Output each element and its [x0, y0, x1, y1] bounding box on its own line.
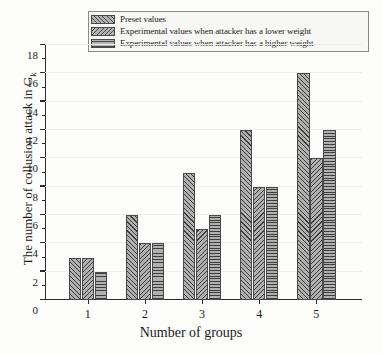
bar — [266, 187, 279, 300]
legend-item-lower-weight: Experimental values when attacker has a … — [91, 25, 366, 37]
bar — [139, 243, 152, 300]
legend-swatch-icon-preset-values — [91, 15, 115, 24]
legend-label-lower-weight: Experimental values when attacker has a … — [120, 26, 311, 36]
y-tick-major — [40, 270, 45, 271]
bar — [196, 229, 209, 300]
y-tick-label: 8 — [12, 192, 38, 203]
bar — [323, 130, 336, 300]
y-tick-major — [40, 157, 45, 158]
bar — [310, 158, 323, 300]
y-tick-major — [40, 100, 45, 101]
bar — [297, 73, 310, 300]
y-tick-major — [40, 214, 45, 215]
y-tick-minor — [42, 285, 45, 286]
y-tick-label: 2 — [12, 277, 38, 288]
x-tick — [316, 300, 317, 304]
x-tick-label: 2 — [130, 308, 160, 320]
legend-item-preset-values: Preset values — [91, 13, 366, 25]
y-tick-major — [40, 242, 45, 243]
y-tick-minor — [42, 172, 45, 173]
y-tick-label: 14 — [12, 107, 38, 118]
legend-label-preset-values: Preset values — [120, 14, 166, 24]
y-tick-label: 6 — [12, 220, 38, 231]
y-tick-label: 12 — [12, 135, 38, 146]
y-tick-minor — [42, 228, 45, 229]
grid-line — [45, 44, 362, 45]
x-tick — [202, 300, 203, 304]
y-tick-major — [40, 44, 45, 45]
bar — [69, 258, 82, 301]
x-tick-label: 3 — [187, 308, 217, 320]
x-tick-label: 4 — [244, 308, 274, 320]
bar — [209, 215, 222, 300]
bar — [253, 187, 266, 300]
y-tick-label: 16 — [12, 78, 38, 89]
bar — [126, 215, 139, 300]
y-tick-major — [40, 299, 45, 300]
grid-line — [45, 129, 362, 130]
plot-area: 024681012141618 12345 — [45, 45, 362, 300]
grid-line — [45, 101, 362, 102]
x-tick — [88, 300, 89, 304]
y-tick-minor — [42, 58, 45, 59]
y-axis-line — [45, 45, 46, 300]
legend-swatch-icon-lower-weight — [91, 27, 115, 36]
chart-root: Preset values Experimental values when a… — [0, 0, 382, 354]
bar — [183, 173, 196, 301]
y-axis-label-subscript: k — [28, 72, 38, 77]
y-tick-label: 4 — [12, 248, 38, 259]
bar — [240, 130, 253, 300]
bar — [82, 258, 95, 301]
y-tick-minor — [42, 200, 45, 201]
y-tick-minor — [42, 143, 45, 144]
y-tick-major — [40, 72, 45, 73]
y-tick-label: 0 — [12, 305, 38, 316]
y-tick-minor — [42, 115, 45, 116]
y-tick-minor — [42, 257, 45, 258]
y-tick-major — [40, 185, 45, 186]
x-tick — [259, 300, 260, 304]
x-axis-label: Number of groups — [0, 325, 382, 341]
x-tick — [145, 300, 146, 304]
x-tick-label: 5 — [301, 308, 331, 320]
bar — [95, 272, 108, 300]
y-tick-minor — [42, 87, 45, 88]
y-tick-label: 18 — [12, 50, 38, 61]
x-tick-label: 1 — [73, 308, 103, 320]
grid-line — [45, 72, 362, 73]
y-tick-major — [40, 129, 45, 130]
y-tick-label: 10 — [12, 163, 38, 174]
bar — [152, 243, 165, 300]
